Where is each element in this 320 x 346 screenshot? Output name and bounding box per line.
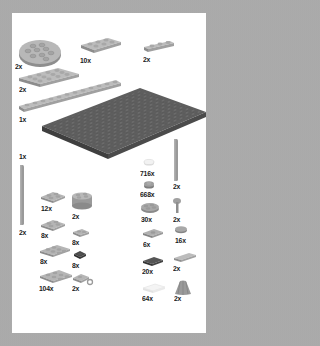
plate-icon (39, 243, 71, 258)
tile-icon (142, 256, 164, 267)
round-tile-icon (174, 225, 188, 234)
part-count: 8x (41, 232, 48, 240)
plate-icon (40, 218, 66, 232)
part-count: 20x (142, 268, 153, 276)
plate-icon (72, 227, 90, 238)
part-count: 10x (80, 57, 91, 65)
round-brick-icon (71, 190, 93, 210)
part-count: 16x (175, 237, 186, 245)
plate-icon (80, 36, 122, 54)
part-count: 1x (19, 116, 26, 124)
part-count: 64x (142, 295, 153, 303)
bar-icon (19, 164, 25, 226)
round-tile-icon (143, 158, 155, 166)
part-count: 6x (143, 241, 150, 249)
tile-icon (173, 252, 197, 263)
part-count: 30x (141, 216, 152, 224)
part-count: 12x (41, 205, 52, 213)
round-plate-icon (143, 180, 155, 189)
plate-icon (73, 250, 87, 260)
part-count: 2x (72, 285, 79, 293)
part-count: 2x (174, 295, 181, 303)
part-count: 2x (72, 213, 79, 221)
part-count: 2x (173, 216, 180, 224)
plate-icon (40, 190, 66, 204)
part-count: 2x (143, 56, 150, 64)
plate-icon (143, 39, 175, 53)
part-count: 2x (19, 229, 26, 237)
plate-icon (39, 268, 73, 284)
bar-icon (173, 138, 179, 182)
part-count: 2x (173, 265, 180, 273)
part-count: 2x (173, 183, 180, 191)
part-count: 8x (40, 258, 47, 266)
round-plate-icon (140, 200, 160, 214)
plate-icon (142, 227, 164, 239)
part-count: 668x (140, 191, 154, 199)
part-count: 8x (72, 262, 79, 270)
lever-icon (172, 196, 182, 214)
part-count: 1x (19, 153, 26, 161)
round-plate-icon (18, 38, 62, 68)
tile-icon (142, 283, 166, 294)
part-count: 716x (140, 170, 154, 178)
part-count: 8x (72, 239, 79, 247)
baseplate-icon (40, 84, 208, 164)
part-count: 104x (39, 285, 53, 293)
